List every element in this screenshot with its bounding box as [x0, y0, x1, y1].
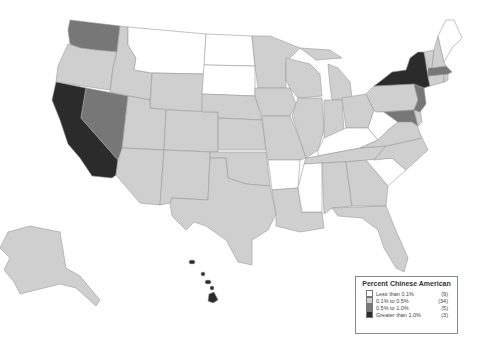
- legend-count: (5): [434, 305, 448, 311]
- state-mississippi[interactable]: [298, 163, 322, 212]
- state-hawaii[interactable]: [189, 260, 218, 303]
- legend-item-0-5-to-1-0: 0.5% to 1.0% (5): [366, 304, 453, 311]
- state-north-dakota[interactable]: [204, 34, 255, 66]
- state-alaska[interactable]: [0, 226, 100, 306]
- state-pennsylvania[interactable]: [366, 84, 418, 112]
- state-arkansas[interactable]: [268, 160, 300, 190]
- swatch-light-gray: [366, 297, 373, 304]
- map-legend: Percent Chinese American Less than 0.1% …: [355, 276, 458, 334]
- legend-count: (34): [434, 298, 448, 304]
- legend-title: Percent Chinese American: [360, 280, 453, 287]
- legend-item-greater-than-1-0: Greater than 1.0% (3): [366, 311, 453, 318]
- state-arizona[interactable]: [116, 148, 164, 205]
- state-new-york[interactable]: [374, 52, 430, 88]
- state-kansas[interactable]: [218, 118, 266, 150]
- legend-item-0-1-to-0-5: 0.1% to 0.5% (34): [366, 297, 453, 304]
- state-new-mexico[interactable]: [160, 150, 210, 205]
- legend-label: Greater than 1.0%: [376, 312, 434, 318]
- state-colorado[interactable]: [164, 110, 218, 152]
- state-rhode-island[interactable]: [444, 74, 448, 82]
- state-florida[interactable]: [332, 206, 408, 272]
- legend-label: 0.5% to 1.0%: [376, 305, 434, 311]
- swatch-dark-gray: [366, 311, 373, 318]
- legend-item-less-than-0-1: Less than 0.1% (9): [366, 290, 453, 297]
- legend-label: Less than 0.1%: [376, 291, 434, 297]
- swatch-white: [366, 290, 373, 297]
- swatch-mid-gray: [366, 304, 373, 311]
- legend-count: (9): [434, 291, 448, 297]
- state-iowa[interactable]: [255, 88, 296, 116]
- state-wyoming[interactable]: [150, 73, 204, 112]
- legend-label: 0.1% to 0.5%: [376, 298, 434, 304]
- state-oregon[interactable]: [56, 44, 117, 90]
- legend-count: (3): [434, 312, 448, 318]
- state-montana[interactable]: [128, 27, 206, 74]
- state-south-dakota[interactable]: [202, 65, 255, 96]
